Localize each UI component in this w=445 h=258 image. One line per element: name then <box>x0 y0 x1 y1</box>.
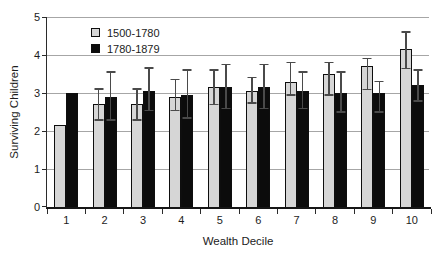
decile-group-3 <box>124 17 162 207</box>
error-bar-1780-1879-decile-6 <box>263 65 265 109</box>
error-cap-top <box>401 31 410 33</box>
error-cap-top <box>183 69 192 71</box>
decile-group-2 <box>85 17 123 207</box>
x-tick-label-1: 1 <box>63 214 69 226</box>
bar-1780-1879-decile-1 <box>66 93 78 207</box>
error-bar-1780-1879-decile-9 <box>379 82 381 112</box>
x-axis-tick-7 <box>315 209 316 214</box>
decile-group-8 <box>316 17 354 207</box>
error-cap-bottom <box>260 108 269 110</box>
error-bar-1500-1780-decile-5 <box>213 70 215 104</box>
error-cap-top <box>106 71 115 73</box>
error-cap-top <box>375 81 384 83</box>
y-tick-label-0: 0 <box>16 200 40 215</box>
bar-1500-1780-decile-3 <box>131 104 143 207</box>
error-cap-bottom <box>363 89 372 91</box>
bar-1780-1879-decile-7 <box>297 91 309 207</box>
x-axis-tick-4 <box>200 209 201 214</box>
error-bar-1500-1780-decile-9 <box>367 59 369 89</box>
x-tick-label-3: 3 <box>140 214 146 226</box>
y-tick-label-2: 2 <box>16 124 40 139</box>
decile-group-10 <box>393 17 431 207</box>
x-tick-label-8: 8 <box>332 214 338 226</box>
x-tick-label-5: 5 <box>217 214 223 226</box>
bar-1780-1879-decile-8 <box>335 93 347 207</box>
error-bar-1500-1780-decile-10 <box>405 32 407 68</box>
bar-1500-1780-decile-6 <box>246 91 258 207</box>
decile-group-1 <box>47 17 85 207</box>
error-cap-bottom <box>209 104 218 106</box>
x-axis-tick-3 <box>162 209 163 214</box>
x-axis-title: Wealth Decile <box>46 234 430 248</box>
y-tick-label-4: 4 <box>16 48 40 63</box>
bar-1500-1780-decile-7 <box>285 82 297 207</box>
error-cap-top <box>132 88 141 90</box>
decile-group-5 <box>201 17 239 207</box>
error-cap-top <box>221 64 230 66</box>
error-cap-bottom <box>401 68 410 70</box>
decile-group-6 <box>239 17 277 207</box>
bar-1780-1879-decile-9 <box>373 93 385 207</box>
error-cap-bottom <box>413 100 422 102</box>
error-bar-1780-1879-decile-3 <box>148 68 150 110</box>
error-bar-1500-1780-decile-2 <box>98 89 100 119</box>
chart: Surviving Children 1500-1780 1780-1879 0… <box>0 0 445 258</box>
bar-1780-1879-decile-3 <box>143 91 155 207</box>
y-tick-label-5: 5 <box>16 10 40 25</box>
error-cap-top <box>209 69 218 71</box>
x-axis-tick-10 <box>431 209 432 214</box>
error-cap-bottom <box>286 94 295 96</box>
decile-group-4 <box>162 17 200 207</box>
bar-1780-1879-decile-6 <box>258 87 270 207</box>
error-bar-1500-1780-decile-4 <box>175 80 177 110</box>
y-tick-label-1: 1 <box>16 162 40 177</box>
error-cap-bottom <box>106 119 115 121</box>
error-bar-1500-1780-decile-6 <box>251 78 253 103</box>
bar-1780-1879-decile-5 <box>220 87 232 207</box>
x-tick-label-7: 7 <box>294 214 300 226</box>
error-cap-bottom <box>94 119 103 121</box>
bar-1500-1780-decile-8 <box>323 74 335 207</box>
error-cap-bottom <box>221 108 230 110</box>
error-cap-top <box>144 67 153 69</box>
bar-1500-1780-decile-9 <box>361 66 373 207</box>
error-cap-bottom <box>132 119 141 121</box>
x-tick-label-4: 4 <box>178 214 184 226</box>
plot-area: 1500-1780 1780-1879 01234512345678910 <box>46 17 431 209</box>
error-cap-top <box>413 69 422 71</box>
error-cap-bottom <box>248 102 257 104</box>
error-bar-1780-1879-decile-10 <box>417 70 419 100</box>
error-cap-top <box>94 88 103 90</box>
x-axis-tick-2 <box>123 209 124 214</box>
error-bar-1780-1879-decile-4 <box>187 70 189 118</box>
error-cap-top <box>248 77 257 79</box>
error-cap-top <box>171 79 180 81</box>
error-cap-bottom <box>144 110 153 112</box>
y-tick-label-3: 3 <box>16 86 40 101</box>
bar-1780-1879-decile-10 <box>412 85 424 207</box>
error-bar-1780-1879-decile-5 <box>225 65 227 109</box>
error-cap-top <box>286 62 295 64</box>
error-bar-1500-1780-decile-3 <box>136 89 138 119</box>
error-cap-bottom <box>375 111 384 113</box>
x-axis-tick-9 <box>392 209 393 214</box>
x-tick-label-9: 9 <box>370 214 376 226</box>
bar-1780-1879-decile-4 <box>181 95 193 207</box>
bar-1500-1780-decile-4 <box>169 97 181 207</box>
error-bar-1780-1879-decile-7 <box>302 72 304 108</box>
error-bar-1500-1780-decile-7 <box>290 63 292 95</box>
bar-1500-1780-decile-5 <box>208 87 220 207</box>
x-axis-tick-8 <box>354 209 355 214</box>
bar-1780-1879-decile-2 <box>105 97 117 207</box>
decile-group-9 <box>354 17 392 207</box>
x-tick-label-10: 10 <box>406 214 418 226</box>
x-tick-label-2: 2 <box>102 214 108 226</box>
error-bar-1780-1879-decile-2 <box>110 72 112 120</box>
error-bar-1500-1780-decile-8 <box>328 63 330 95</box>
error-cap-bottom <box>171 110 180 112</box>
x-axis-tick-6 <box>277 209 278 214</box>
error-cap-top <box>324 62 333 64</box>
bar-1500-1780-decile-10 <box>400 49 412 207</box>
error-cap-top <box>336 71 345 73</box>
error-bar-1780-1879-decile-8 <box>340 72 342 112</box>
